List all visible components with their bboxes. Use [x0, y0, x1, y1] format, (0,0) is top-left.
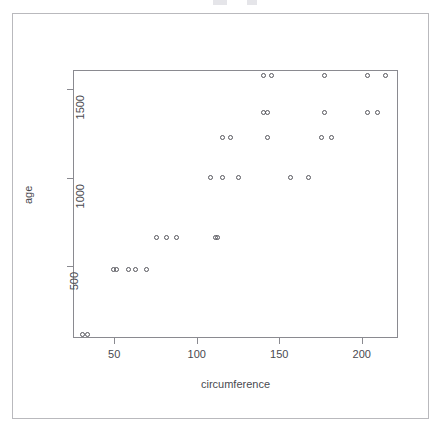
data-point	[144, 267, 149, 272]
y-axis-tick-label: 1000	[74, 184, 86, 208]
clipped-title-fragment-right	[247, 0, 257, 5]
x-axis-tick	[114, 338, 115, 344]
data-point	[322, 110, 327, 115]
data-point	[322, 73, 327, 78]
data-point	[265, 135, 270, 140]
data-point	[265, 110, 270, 115]
x-axis-tick	[279, 338, 280, 344]
data-point	[126, 267, 131, 272]
x-axis-label: circumference	[73, 378, 398, 390]
data-point	[269, 73, 274, 78]
data-point	[133, 267, 138, 272]
y-axis-tick	[67, 178, 73, 179]
data-point	[85, 332, 90, 337]
data-point	[228, 135, 233, 140]
x-axis-tick-label: 200	[353, 348, 371, 360]
y-axis-tick-label: 500	[68, 272, 80, 290]
screenshot-root: circumference age 5010015020050010001500	[0, 0, 442, 431]
x-axis-tick-label: 50	[108, 348, 120, 360]
y-axis-label: age	[22, 186, 34, 204]
data-point	[220, 175, 225, 180]
y-axis-tick-label: 1500	[74, 95, 86, 119]
data-point	[215, 235, 220, 240]
x-axis-tick	[362, 338, 363, 344]
data-point	[306, 175, 311, 180]
clipped-title-fragment-left	[213, 0, 227, 5]
plot-area	[73, 70, 398, 338]
x-axis-tick-label: 100	[188, 348, 206, 360]
data-point	[80, 332, 85, 337]
data-point	[174, 235, 179, 240]
y-axis-tick	[67, 266, 73, 267]
data-point	[154, 235, 159, 240]
data-point	[208, 175, 213, 180]
y-axis-tick	[67, 89, 73, 90]
data-point	[365, 110, 370, 115]
data-point	[383, 73, 388, 78]
data-point	[261, 73, 266, 78]
x-axis-tick	[197, 338, 198, 344]
x-axis-tick-label: 150	[270, 348, 288, 360]
data-point	[220, 135, 225, 140]
data-point	[365, 73, 370, 78]
data-point	[329, 135, 334, 140]
data-point	[288, 175, 293, 180]
data-point	[375, 110, 380, 115]
data-point	[164, 235, 169, 240]
data-point	[236, 175, 241, 180]
data-point	[114, 267, 119, 272]
data-point	[319, 135, 324, 140]
